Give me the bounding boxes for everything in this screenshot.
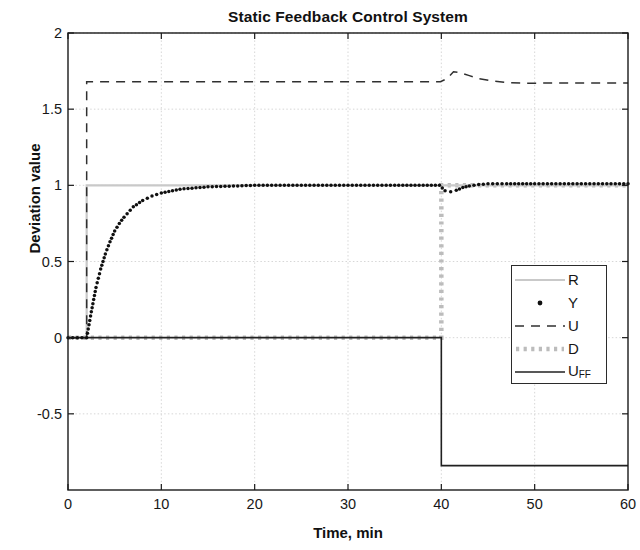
chart-legend[interactable]: RYUDUFF (511, 265, 607, 384)
legend-item-u[interactable]: U (512, 314, 608, 337)
legend-item-r[interactable]: R (512, 268, 608, 291)
legend-label-subscript: FF (579, 369, 591, 380)
axis-frame (68, 33, 628, 490)
legend-label: R (568, 272, 579, 287)
legend-item-d[interactable]: D (512, 337, 608, 360)
legend-item-u-ff[interactable]: UFF (512, 360, 608, 383)
legend-label: D (568, 341, 579, 356)
axis-tick-marks (68, 33, 628, 490)
legend-sample-y (512, 292, 568, 314)
legend-sample-r (512, 269, 568, 291)
legend-sample-u-ff (512, 361, 568, 383)
grid-lines (68, 33, 628, 490)
legend-sample-u (512, 315, 568, 337)
legend-sample-d (512, 338, 568, 360)
figure-canvas: Static Feedback Control System Deviation… (0, 0, 640, 550)
legend-label: U (568, 318, 579, 333)
legend-item-y[interactable]: Y (512, 291, 608, 314)
legend-label: Y (568, 295, 578, 310)
legend-label: UFF (568, 363, 591, 380)
